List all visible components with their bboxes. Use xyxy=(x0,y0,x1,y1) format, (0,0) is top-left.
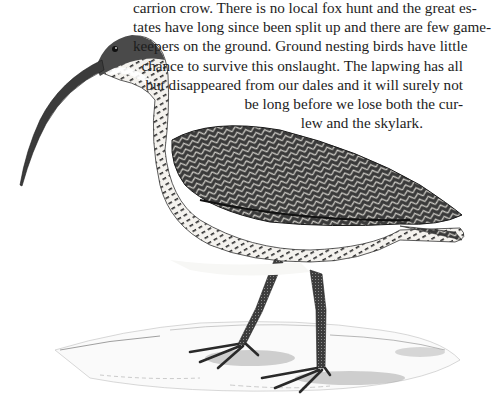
text-line: keepers on the ground. Ground nesting bi… xyxy=(133,36,463,55)
text-line: but disappeared from our dales and it wi… xyxy=(133,75,463,94)
body-text-paragraph: carrion crow. There is no local fox hunt… xyxy=(133,0,463,132)
ground-sketch xyxy=(55,322,460,392)
text-line: chance to survive this onslaught. The la… xyxy=(133,56,463,75)
curlew-bill xyxy=(20,60,104,186)
text-line: be long before we lose both the cur- xyxy=(133,94,463,113)
text-line: carrion crow. There is no local fox hunt… xyxy=(133,0,469,17)
eye-icon xyxy=(112,46,118,52)
book-page: carrion crow. There is no local fox hunt… xyxy=(0,0,501,401)
text-line: tates have long since been split up and … xyxy=(133,17,463,36)
curlew-wing xyxy=(172,126,462,240)
text-line: lew and the skylark. xyxy=(133,113,423,132)
